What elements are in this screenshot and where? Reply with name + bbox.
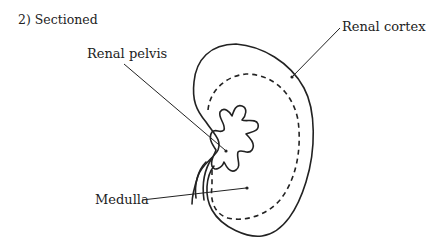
renal-pelvis-leader [124, 64, 225, 150]
renal-cortex-leader [292, 28, 340, 77]
kidney-section-diagram [0, 0, 429, 244]
